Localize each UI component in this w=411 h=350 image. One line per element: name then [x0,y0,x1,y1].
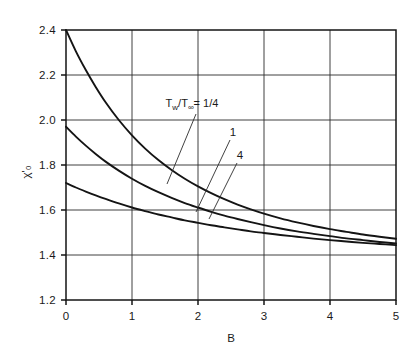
x-tick-label-5: 5 [393,310,400,322]
line-chart: 2.4 2.2 2.0 1.8 1.6 1.4 1.2 0 1 2 3 4 5 … [0,0,411,350]
y-tick-label-1.8: 1.8 [39,159,56,171]
annotation-label-four: 4 [237,149,244,161]
y-tick-label-2.0: 2.0 [39,114,56,126]
y-tick-label-1.4: 1.4 [39,249,56,261]
y-tick-label-2.4: 2.4 [39,24,56,36]
figure-container: 2.4 2.2 2.0 1.8 1.6 1.4 1.2 0 1 2 3 4 5 … [0,0,411,350]
x-tick-label-2: 2 [195,310,202,322]
annotation-eq-quarter: = 1/4 [194,97,219,109]
y-tick-label-2.2: 2.2 [39,69,56,81]
y-tick-label-1.2: 1.2 [39,294,56,306]
x-axis-title: B [227,332,235,344]
y-tick-labels: 2.4 2.2 2.0 1.8 1.6 1.4 1.2 [39,24,56,306]
x-tick-label-3: 3 [261,310,268,322]
annotation-label-one: 1 [230,126,236,138]
x-tick-label-4: 4 [327,310,334,322]
x-tick-label-0: 0 [63,310,70,322]
x-tick-labels: 0 1 2 3 4 5 [63,310,400,322]
x-tick-label-1: 1 [129,310,136,322]
y-axis-title: χ'₀ [20,165,32,178]
y-tick-label-1.6: 1.6 [39,204,56,216]
y-axis-title-text: χ'₀ [20,165,32,178]
